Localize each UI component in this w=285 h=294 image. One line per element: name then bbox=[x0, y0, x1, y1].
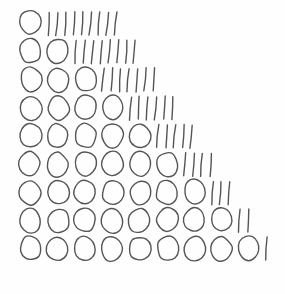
staircase-figure bbox=[0, 0, 285, 294]
drawing-canvas bbox=[0, 0, 285, 294]
tally-mark bbox=[138, 96, 139, 119]
